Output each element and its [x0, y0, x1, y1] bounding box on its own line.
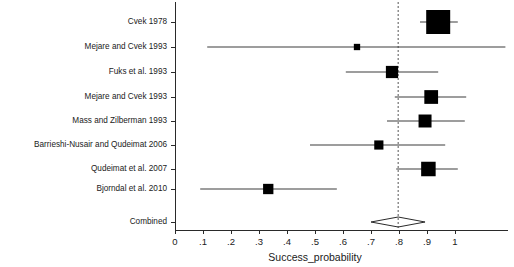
combined-label: Combined [130, 217, 168, 226]
study-marker [426, 10, 450, 34]
x-axis-tick-label: .2 [227, 236, 235, 247]
study-label: Mejare and Cvek 1993 [85, 42, 168, 51]
study-label: Cvek 1978 [128, 17, 168, 26]
x-axis-tick-label: .3 [255, 236, 263, 247]
study-label: Mejare and Cvek 1993 [85, 92, 168, 101]
x-axis-tick-label: .6 [339, 236, 347, 247]
x-axis-tick-label: .1 [199, 236, 207, 247]
study-label: Qudeimat et al. 2007 [91, 164, 167, 173]
study-marker [374, 140, 383, 149]
x-axis-tick-label: .5 [311, 236, 319, 247]
study-label: Bjorndal et al. 2010 [96, 184, 167, 193]
x-axis-tick-label: .8 [395, 236, 403, 247]
study-label: Barrieshi-Nusair and Qudeimat 2006 [34, 140, 167, 149]
x-axis-title: Success_probability [268, 251, 362, 263]
study-marker [386, 66, 398, 78]
forest-plot-figure: Cvek 1978Mejare and Cvek 1993Fuks et al.… [0, 0, 514, 267]
x-axis-tick-label: 0 [172, 236, 177, 247]
study-label: Mass and Zilberman 1993 [72, 116, 167, 125]
study-marker [421, 162, 436, 177]
x-axis-tick-label: .4 [283, 236, 291, 247]
study-marker [354, 44, 360, 50]
study-marker [419, 115, 432, 128]
forest-plot-canvas: Cvek 1978Mejare and Cvek 1993Fuks et al.… [0, 0, 514, 267]
study-marker [263, 184, 273, 194]
study-marker [424, 90, 438, 104]
x-axis-tick-label: .9 [423, 236, 431, 247]
x-axis-tick-label: .7 [367, 236, 375, 247]
x-axis-tick-label: 1 [452, 236, 457, 247]
study-label: Fuks et al. 1993 [109, 67, 168, 76]
